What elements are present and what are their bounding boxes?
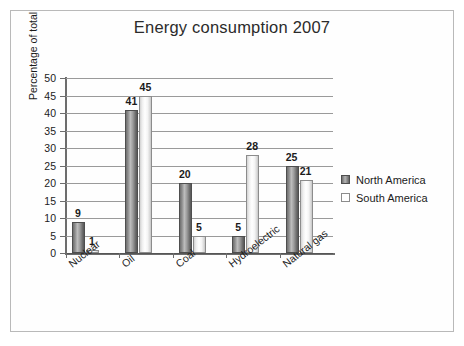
y-tick-mark bbox=[60, 96, 65, 97]
bar-value-label: 25 bbox=[277, 152, 307, 163]
y-tick-mark bbox=[60, 78, 65, 79]
bar-oil-north-america[interactable] bbox=[125, 110, 138, 254]
bar-value-label: 20 bbox=[170, 169, 200, 180]
x-tick-mark bbox=[66, 253, 67, 258]
y-tick-label: 30 bbox=[32, 143, 56, 154]
y-tick-label: 25 bbox=[32, 161, 56, 172]
legend-item-south-america[interactable]: South America bbox=[341, 190, 428, 205]
y-tick-mark bbox=[60, 253, 65, 254]
bar-natural-gas-north-america[interactable] bbox=[286, 166, 299, 254]
legend-label: North America bbox=[356, 174, 426, 186]
legend-item-north-america[interactable]: North America bbox=[341, 172, 428, 187]
bar-value-label: 45 bbox=[130, 82, 160, 93]
bar-value-label: 5 bbox=[184, 222, 214, 233]
y-tick-label: 15 bbox=[32, 196, 56, 207]
bar-group: 91 bbox=[72, 78, 99, 253]
chart-legend: North AmericaSouth America bbox=[341, 172, 428, 208]
bar-group: 205 bbox=[179, 78, 206, 253]
legend-swatch-icon bbox=[341, 193, 350, 202]
bar-value-label: 9 bbox=[63, 208, 93, 219]
bar-group: 4145 bbox=[125, 78, 152, 253]
plot-area: 9141452055282521 bbox=[66, 78, 333, 253]
y-tick-label: 35 bbox=[32, 126, 56, 137]
bar-value-label: 21 bbox=[291, 166, 321, 177]
y-tick-label: 5 bbox=[32, 231, 56, 242]
y-tick-mark bbox=[60, 166, 65, 167]
y-tick-label: 45 bbox=[32, 91, 56, 102]
y-tick-mark bbox=[60, 113, 65, 114]
y-tick-mark bbox=[60, 218, 65, 219]
y-tick-label: 40 bbox=[32, 108, 56, 119]
y-tick-label: 10 bbox=[32, 213, 56, 224]
bar-group: 528 bbox=[232, 78, 259, 253]
x-tick-mark bbox=[119, 253, 120, 258]
x-tick-mark bbox=[226, 253, 227, 258]
x-tick-mark bbox=[280, 253, 281, 258]
bar-oil-south-america[interactable] bbox=[139, 96, 152, 254]
chart-page: Energy consumption 2007 Percentage of to… bbox=[0, 0, 464, 346]
legend-swatch-icon bbox=[341, 175, 350, 184]
y-tick-mark bbox=[60, 183, 65, 184]
bar-coal-south-america[interactable] bbox=[193, 236, 206, 254]
y-tick-label: 20 bbox=[32, 178, 56, 189]
y-tick-mark bbox=[60, 236, 65, 237]
y-tick-label: 0 bbox=[32, 248, 56, 259]
bar-value-label: 28 bbox=[237, 141, 267, 152]
bar-coal-north-america[interactable] bbox=[179, 183, 192, 253]
bar-group: 2521 bbox=[286, 78, 313, 253]
x-tick-mark bbox=[173, 253, 174, 258]
y-tick-mark bbox=[60, 131, 65, 132]
y-tick-label: 50 bbox=[32, 73, 56, 84]
y-tick-mark bbox=[60, 148, 65, 149]
chart-title: Energy consumption 2007 bbox=[0, 18, 464, 37]
legend-label: South America bbox=[356, 192, 428, 204]
y-tick-mark bbox=[60, 201, 65, 202]
